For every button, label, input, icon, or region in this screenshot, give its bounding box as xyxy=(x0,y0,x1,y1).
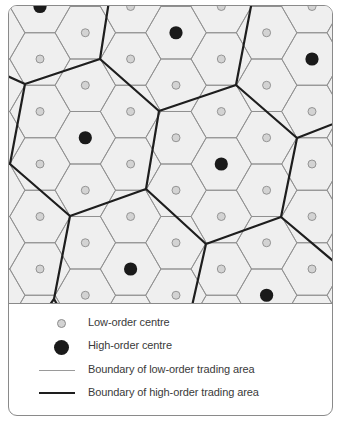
legend-label: Boundary of high-order trading area xyxy=(88,386,259,398)
high-order-centre-icon xyxy=(124,262,137,275)
high-order-centre-icon xyxy=(79,131,92,144)
low-order-centre-icon xyxy=(263,81,271,89)
low-order-centre-icon xyxy=(127,213,135,221)
low-order-centre-icon xyxy=(308,6,316,11)
low-order-centre-icon xyxy=(36,265,44,273)
diagram-frame: Low-order centre High-order centre Bound… xyxy=(8,5,333,416)
low-order-centre-icon xyxy=(172,134,180,142)
low-order-centre-icon xyxy=(36,55,44,63)
legend: Low-order centre High-order centre Bound… xyxy=(9,306,332,416)
low-order-centre-icon xyxy=(172,81,180,89)
low-order-centre-icon xyxy=(217,6,225,11)
low-order-centre-icon xyxy=(81,186,89,194)
low-order-centre-icon xyxy=(127,108,135,116)
thin-line-icon xyxy=(39,361,87,381)
low-order-centre-icon xyxy=(172,291,180,299)
low-order-centre-icon xyxy=(217,265,225,273)
legend-item-low-order-boundary: Boundary of low-order trading area xyxy=(9,361,332,381)
low-order-centre-icon xyxy=(308,108,316,116)
low-order-centre-icon xyxy=(217,213,225,221)
legend-label: Boundary of low-order trading area xyxy=(88,363,255,375)
map-background xyxy=(9,6,333,304)
low-order-centre-icon xyxy=(127,6,135,11)
high-order-centre-icon xyxy=(260,289,273,302)
low-order-centre-icon xyxy=(263,134,271,142)
low-order-centre-icon xyxy=(36,213,44,221)
low-order-centre-icon xyxy=(263,29,271,37)
map-legend-divider xyxy=(9,303,332,304)
low-order-centre-icon xyxy=(81,29,89,37)
low-order-centre-icon xyxy=(263,186,271,194)
low-order-centre-icon xyxy=(36,108,44,116)
low-order-centre-icon xyxy=(172,186,180,194)
low-order-centre-icon xyxy=(172,239,180,247)
thick-line-icon xyxy=(39,384,87,404)
low-order-centre-icon xyxy=(127,160,135,168)
legend-label: High-order centre xyxy=(88,339,172,351)
low-order-centre-icon xyxy=(217,55,225,63)
high-order-centre-icon xyxy=(215,157,228,170)
legend-label: Low-order centre xyxy=(88,316,170,328)
low-order-centre-icon xyxy=(308,160,316,168)
low-order-centre-icon xyxy=(81,239,89,247)
low-order-centre-icon xyxy=(308,213,316,221)
low-order-centre-icon xyxy=(263,239,271,247)
low-order-centre-icon xyxy=(308,265,316,273)
high-order-centre-icon xyxy=(169,26,182,39)
legend-item-high-order-boundary: Boundary of high-order trading area xyxy=(9,384,332,404)
legend-item-low-order-centre: Low-order centre xyxy=(9,314,332,334)
low-order-centre-icon xyxy=(39,314,87,334)
low-order-centre-icon xyxy=(81,291,89,299)
low-order-centre-icon xyxy=(217,108,225,116)
low-order-centre-icon xyxy=(36,160,44,168)
hexagonal-market-map xyxy=(9,6,333,304)
low-order-centre-icon xyxy=(81,81,89,89)
high-order-centre-icon xyxy=(305,52,318,65)
high-order-centre-icon xyxy=(39,337,87,357)
legend-item-high-order-centre: High-order centre xyxy=(9,337,332,357)
low-order-centre-icon xyxy=(127,55,135,63)
